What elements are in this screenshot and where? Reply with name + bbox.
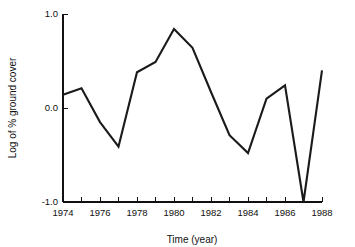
y-axis-tick-labels: -1.00.01.0 xyxy=(42,8,58,207)
y-axis-tick-marks xyxy=(63,14,68,202)
y-axis-title: Log of % ground cover xyxy=(7,57,18,158)
chart-container: -1.00.01.0 19741976197819801982198419861… xyxy=(0,0,355,247)
x-axis-tick-marks xyxy=(63,197,322,202)
x-tick-label: 1974 xyxy=(52,207,73,218)
x-axis-title: Time (year) xyxy=(167,234,218,245)
x-tick-label: 1986 xyxy=(274,207,295,218)
y-tick-label: -1.0 xyxy=(42,196,58,207)
x-tick-label: 1976 xyxy=(89,207,110,218)
x-tick-label: 1988 xyxy=(311,207,332,218)
x-tick-label: 1984 xyxy=(237,207,258,218)
data-series-line xyxy=(63,29,322,202)
x-axis-tick-labels: 19741976197819801982198419861988 xyxy=(52,207,332,218)
y-tick-label: 0.0 xyxy=(45,102,58,113)
x-tick-label: 1982 xyxy=(200,207,221,218)
x-tick-label: 1978 xyxy=(126,207,147,218)
x-tick-label: 1980 xyxy=(163,207,184,218)
line-chart: -1.00.01.0 19741976197819801982198419861… xyxy=(0,0,355,247)
y-tick-label: 1.0 xyxy=(45,8,58,19)
